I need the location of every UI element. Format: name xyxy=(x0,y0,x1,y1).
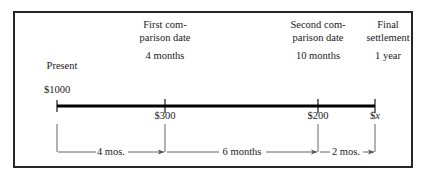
timeline-artwork xyxy=(0,0,430,182)
figure-container: First com- parison date 4 months Second … xyxy=(0,0,430,182)
